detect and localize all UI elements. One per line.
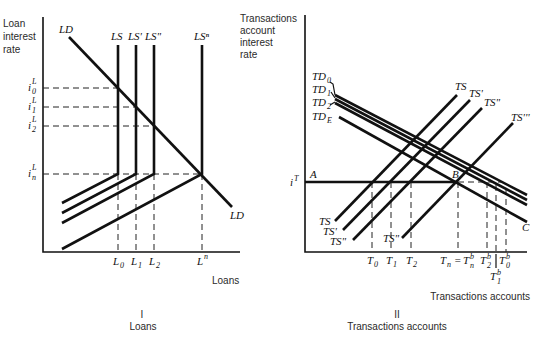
- label-TD2: TD 2: [312, 96, 331, 111]
- svg-text:i: i: [290, 176, 293, 188]
- svg-text:1: 1: [32, 106, 36, 115]
- left-y-axis-label-line3: rate: [3, 44, 21, 55]
- curve-LS: [62, 45, 118, 203]
- left-x-axis-label: Loans: [212, 275, 239, 286]
- curve-LS-n: [62, 45, 202, 249]
- label-TS-double-prime-bottom: TS": [330, 235, 347, 247]
- svg-text:T: T: [386, 254, 393, 266]
- svg-text:i: i: [28, 81, 31, 93]
- panel-transactions: Transactions account interest rate: [240, 13, 530, 332]
- right-caption-numeral: II: [394, 309, 400, 320]
- svg-text:L: L: [148, 255, 155, 267]
- right-caption-title: Transactions accounts: [347, 321, 447, 332]
- qty-label-L0: L 0: [112, 255, 124, 270]
- svg-text:n: n: [447, 260, 451, 269]
- svg-text:T: T: [499, 254, 506, 266]
- label-LD-top: LD: [58, 23, 73, 35]
- right-y-axis-label-line1: Transactions: [240, 13, 297, 24]
- svg-text:i: i: [28, 100, 31, 112]
- svg-text:T: T: [440, 254, 447, 266]
- rate-label-in: i L n: [28, 163, 37, 182]
- point-B: B: [452, 168, 459, 180]
- curve-TD0: [335, 95, 527, 195]
- svg-text:n: n: [470, 261, 474, 270]
- label-TS-double-prime-top: TS": [484, 96, 501, 108]
- svg-text:b: b: [506, 252, 510, 261]
- svg-text:T: T: [406, 254, 413, 266]
- right-y-axis-label-line3: interest: [240, 37, 273, 48]
- qty-label-L2: L 2: [148, 255, 160, 270]
- svg-text:1: 1: [327, 89, 331, 98]
- label-TDE: TD E: [312, 110, 332, 125]
- rate-label-i0: i L 0: [28, 77, 37, 96]
- svg-text:2: 2: [156, 261, 160, 270]
- qty-label-Ln: L n: [196, 252, 208, 267]
- left-caption-title: Loans: [129, 321, 156, 332]
- label-LS: LS: [110, 30, 123, 42]
- right-x-axis-label: Transactions accounts: [430, 291, 530, 302]
- svg-text:T: T: [490, 270, 497, 282]
- svg-text:0: 0: [120, 261, 124, 270]
- svg-text:b: b: [497, 268, 501, 277]
- svg-text:2: 2: [487, 261, 491, 270]
- rate-label-i1: i L 1: [28, 96, 37, 115]
- svg-text:L: L: [31, 115, 37, 124]
- svg-text:1: 1: [138, 261, 142, 270]
- label-LS-n: LSⁿ: [193, 30, 210, 42]
- svg-text:0: 0: [327, 76, 331, 85]
- svg-text:n: n: [204, 252, 208, 261]
- svg-text:L: L: [31, 96, 37, 105]
- svg-text:TD: TD: [312, 96, 326, 108]
- svg-text:1: 1: [497, 277, 501, 286]
- right-y-axis-label-line4: rate: [240, 49, 258, 60]
- qty-label-T1: T 1: [386, 254, 397, 269]
- svg-text:b: b: [487, 252, 491, 261]
- svg-text:E: E: [326, 116, 332, 125]
- svg-text:=: =: [454, 254, 461, 266]
- svg-text:TD: TD: [312, 110, 326, 122]
- svg-text:T: T: [463, 254, 470, 266]
- svg-text:TD: TD: [312, 70, 326, 82]
- svg-text:T: T: [367, 254, 374, 266]
- point-C: C: [522, 221, 530, 233]
- svg-text:i: i: [28, 119, 31, 131]
- svg-text:L: L: [196, 255, 203, 267]
- label-TS-triple-prime-top: TS''': [511, 111, 530, 123]
- label-LS-double-prime: LS": [144, 30, 162, 42]
- label-TS-top: TS: [455, 80, 467, 92]
- curve-LD: [69, 37, 232, 207]
- curve-TD1: [335, 99, 527, 200]
- svg-text:T: T: [294, 174, 299, 183]
- svg-text:2: 2: [32, 125, 36, 134]
- svg-text:i: i: [28, 167, 31, 179]
- qty-label-L1: L 1: [130, 255, 142, 270]
- svg-text:1: 1: [393, 260, 397, 269]
- svg-text:b: b: [470, 252, 474, 261]
- svg-text:n: n: [32, 173, 36, 182]
- svg-text:TD: TD: [312, 83, 326, 95]
- diagram-canvas: Loan interest rate LD LD LS LS' LS" LSⁿ …: [0, 0, 540, 340]
- svg-text:0: 0: [506, 261, 510, 270]
- qty-label-T0: T 0: [367, 254, 378, 269]
- rate-label-i2: i L 2: [28, 115, 37, 134]
- right-y-axis-label-line2: account: [240, 25, 275, 36]
- left-caption-numeral: I: [141, 309, 144, 320]
- left-y-axis-label-line2: interest: [3, 31, 36, 42]
- svg-text:T: T: [480, 254, 487, 266]
- svg-text:0: 0: [32, 87, 36, 96]
- label-TS-triple-prime-bottom: TS": [383, 232, 400, 244]
- qty-label-T2: T 2: [406, 254, 417, 269]
- qty-label-Tn-eq-Tnb: T n = T b n: [440, 252, 474, 270]
- panel-loans: Loan interest rate LD LD LS LS' LS" LSⁿ …: [3, 17, 244, 332]
- qty-label-T1b: T b 1: [490, 268, 501, 286]
- svg-text:0: 0: [374, 260, 378, 269]
- left-y-axis-label-line1: Loan: [3, 18, 25, 29]
- svg-text:L: L: [31, 77, 37, 86]
- rate-label-iT: i T: [290, 174, 299, 188]
- svg-text:L: L: [31, 163, 37, 172]
- svg-text:L: L: [112, 255, 119, 267]
- label-LS-prime: LS': [127, 30, 143, 42]
- curve-LS-prime: [62, 45, 136, 213]
- svg-text:2: 2: [327, 102, 331, 111]
- svg-text:2: 2: [413, 260, 417, 269]
